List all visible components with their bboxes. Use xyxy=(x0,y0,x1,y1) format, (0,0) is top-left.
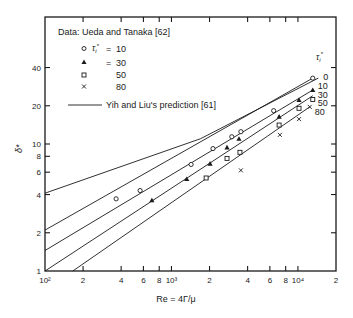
triangle-marker xyxy=(310,87,315,92)
legend-entry-80-value: 80 xyxy=(116,82,126,92)
y-tick-label: 1 xyxy=(37,267,42,276)
x-axis-label: Re = 4Γ/μ xyxy=(156,294,195,304)
y-axis-label: δ* xyxy=(14,144,24,153)
square-marker xyxy=(297,106,301,110)
legend-entry-10: = xyxy=(106,44,111,54)
legend: Data: Ueda and Tanaka [62] τi* = 10 = 30… xyxy=(58,27,216,110)
x-tick-label: 4 xyxy=(245,276,250,285)
legend-entry-prediction: Yih and Liu's prediction [61] xyxy=(106,100,216,110)
x-tick-label: 10⁴ xyxy=(292,276,305,285)
square-marker xyxy=(225,156,229,160)
x-tick-label: 6 xyxy=(268,276,273,285)
square-marker-icon xyxy=(82,73,86,77)
circle-marker xyxy=(239,130,243,134)
y-tick-label: 10 xyxy=(32,140,41,149)
y-tick-label: 6 xyxy=(37,168,42,177)
square-marker xyxy=(311,98,315,102)
y-tick-label: 2 xyxy=(37,229,42,238)
legend-entry-50-value: 50 xyxy=(116,70,126,80)
y-tick-label: 4 xyxy=(37,191,42,200)
y-tick-label: 20 xyxy=(32,102,41,111)
x-tick-label: 6 xyxy=(141,276,146,285)
x-marker-icon xyxy=(82,85,86,89)
y-tick-label: 8 xyxy=(37,152,42,161)
x-tick-label: 10³ xyxy=(166,276,178,285)
chart: 10²246810³246810⁴2 12468102040 010305080… xyxy=(0,0,353,318)
x-tick-label: 4 xyxy=(119,276,124,285)
prediction-line xyxy=(45,90,313,251)
x-axis-ticks: 10²246810³246810⁴2 xyxy=(39,17,339,285)
x-tick-label: 2 xyxy=(207,276,212,285)
triangle-marker-icon xyxy=(82,60,87,65)
y-tick-label: 40 xyxy=(32,64,41,73)
triangle-marker xyxy=(236,136,241,141)
circle-marker xyxy=(138,188,142,192)
square-marker xyxy=(238,150,242,154)
prediction-line xyxy=(73,107,310,271)
x-tick-label: 2 xyxy=(334,276,339,285)
square-marker xyxy=(277,123,281,127)
circle-marker xyxy=(230,135,234,139)
x-tick-label: 8 xyxy=(283,276,288,285)
x-tick-label: 8 xyxy=(157,276,162,285)
circle-marker xyxy=(211,146,215,150)
legend-entry-10-value: 10 xyxy=(116,44,126,54)
prediction-line xyxy=(45,96,313,271)
circle-marker xyxy=(272,109,276,113)
x-marker xyxy=(278,133,282,137)
legend-header: Data: Ueda and Tanaka [62] xyxy=(58,27,170,37)
x-tick-label: 2 xyxy=(81,276,86,285)
x-marker xyxy=(297,117,301,121)
plot-frame xyxy=(45,17,336,271)
square-marker xyxy=(204,176,208,180)
legend-entry-30-value: 30 xyxy=(116,58,126,68)
circle-marker-icon xyxy=(82,47,86,51)
legend-param-symbol: τi* xyxy=(92,43,100,54)
x-tick-label: 10² xyxy=(39,276,51,285)
circle-marker xyxy=(189,162,193,166)
y-axis-ticks: 12468102040 xyxy=(32,64,336,276)
prediction-line xyxy=(45,78,318,193)
x-marker xyxy=(308,105,312,109)
line-label-header: τi* xyxy=(316,51,324,63)
line-label: 80 xyxy=(315,107,325,117)
triangle-marker xyxy=(224,145,229,150)
circle-marker xyxy=(114,197,118,201)
legend-entry-30: = xyxy=(106,58,111,68)
circle-marker xyxy=(311,76,315,80)
x-marker xyxy=(239,168,243,172)
